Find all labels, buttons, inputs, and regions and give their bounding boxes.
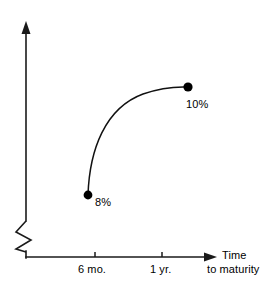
x-axis-arrow-icon [204,253,217,262]
x-axis-label-line2: to maturity [207,263,259,276]
x-axis-label-line1: Time [222,249,246,262]
x-axis-tick-label-6mo: 6 mo. [78,263,106,276]
data-label-8-percent: 8% [95,196,111,209]
x-axis-tick-label-1yr: 1 yr. [150,263,171,276]
yield-curve-figure: 8% 10% 6 mo. 1 yr. Time to maturity [0,0,275,302]
yield-curve-line [88,87,188,195]
y-axis-arrow-icon [22,21,31,34]
data-point-10-percent [183,82,192,91]
data-label-10-percent: 10% [186,98,208,111]
y-axis-break-icon [16,221,31,252]
data-point-8-percent [84,191,93,200]
